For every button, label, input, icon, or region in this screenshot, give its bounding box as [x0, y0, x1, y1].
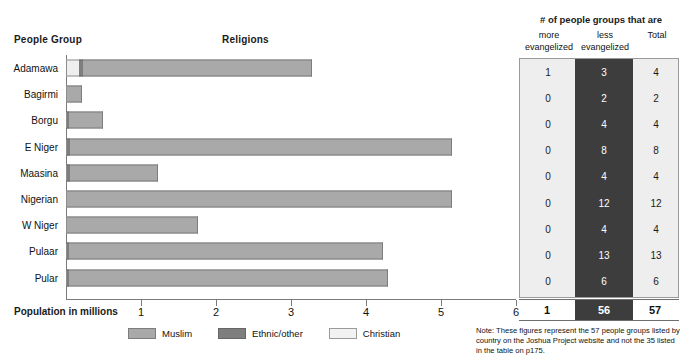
category-label: Pular	[35, 272, 58, 283]
bar-segment-muslim	[69, 112, 103, 129]
cell-total: 13	[632, 250, 680, 261]
table-body: 1340220440880440121204401313066	[519, 58, 679, 298]
column-header-less-line2: evangelized	[581, 42, 629, 52]
table-row: 01212	[520, 190, 678, 216]
table-row: 088	[520, 138, 678, 164]
table-row: 044	[520, 164, 678, 190]
column-header-less-line1: less	[597, 30, 613, 40]
table-total-row: 1 56 57	[519, 299, 679, 321]
cell-less-evangelized: 12	[575, 198, 633, 209]
category-label: Pulaar	[29, 246, 58, 257]
bar-segment-muslim	[66, 217, 198, 234]
cell-less-evangelized: 2	[575, 93, 633, 104]
bar-segment-muslim	[70, 138, 453, 155]
x-tick-label: 3	[288, 306, 294, 318]
x-tick-label: 2	[213, 306, 219, 318]
stacked-bar	[66, 191, 452, 208]
cell-more-evangelized: 0	[520, 119, 576, 130]
table-row: 022	[520, 85, 678, 111]
bar-row: Bagirmi	[66, 81, 516, 107]
table-column-headers: more evangelized less evangelized Total	[520, 30, 682, 56]
column-header-more-line1: more	[539, 30, 560, 40]
category-label: Adamawa	[14, 63, 58, 74]
cell-total: 4	[632, 171, 680, 182]
column-header-total: Total	[632, 30, 682, 42]
stacked-bar	[66, 269, 388, 286]
cell-total: 8	[632, 145, 680, 156]
bar-segment-muslim	[83, 60, 312, 77]
bar-row: Maasina	[66, 160, 516, 186]
total-less-value: 56	[575, 304, 633, 316]
category-label: Nigerian	[21, 194, 58, 205]
cell-more-evangelized: 0	[520, 276, 576, 287]
bar-segment-muslim	[66, 191, 452, 208]
column-header-more: more evangelized	[518, 30, 580, 53]
bar-row: Nigerian	[66, 186, 516, 212]
summary-table: # of people groups that are more evangel…	[520, 0, 682, 359]
table-row: 044	[520, 216, 678, 242]
x-tick-label: 5	[438, 306, 444, 318]
cell-total: 4	[632, 224, 680, 235]
category-label: Maasina	[20, 167, 58, 178]
table-title: # of people groups that are	[520, 14, 682, 25]
cell-less-evangelized: 8	[575, 145, 633, 156]
cell-less-evangelized: 4	[575, 224, 633, 235]
religions-header: Religions	[222, 34, 269, 45]
cell-more-evangelized: 0	[520, 198, 576, 209]
category-label: Borgu	[31, 115, 58, 126]
table-row: 01313	[520, 242, 678, 268]
bar-row: W Niger	[66, 212, 516, 238]
category-label: Bagirmi	[24, 89, 58, 100]
bar-row: Pular	[66, 265, 516, 291]
people-group-header: People Group	[14, 34, 82, 45]
cell-less-evangelized: 4	[575, 119, 633, 130]
cell-more-evangelized: 0	[520, 93, 576, 104]
bar-row: Pulaar	[66, 238, 516, 264]
cell-more-evangelized: 0	[520, 224, 576, 235]
footnote: Note: These figures represent the 57 peo…	[476, 326, 682, 357]
bar-row: E Niger	[66, 134, 516, 160]
cell-total: 2	[632, 93, 680, 104]
table-row: 066	[520, 269, 678, 295]
x-tick-label: 4	[363, 306, 369, 318]
cell-total: 12	[632, 198, 680, 209]
legend-label: Ethnic/other	[252, 328, 303, 339]
legend-label: Muslim	[162, 328, 192, 339]
bar-segment-christian	[66, 60, 79, 77]
bar-segment-muslim	[69, 243, 383, 260]
cell-less-evangelized: 6	[575, 276, 633, 287]
x-axis-labels: 123456	[66, 306, 526, 320]
legend-swatch-ethnic	[218, 328, 246, 339]
cell-less-evangelized: 13	[575, 250, 633, 261]
legend-swatch-christian	[329, 328, 357, 339]
category-label: W Niger	[22, 220, 58, 231]
legend-item: Christian	[329, 328, 401, 339]
legend-label: Christian	[363, 328, 401, 339]
total-total-value: 57	[631, 304, 679, 316]
stacked-bar	[66, 112, 103, 129]
cell-total: 6	[632, 276, 680, 287]
stacked-bar	[66, 164, 158, 181]
bar-chart: People Group Religions AdamawaBagirmiBor…	[0, 0, 520, 359]
table-row: 134	[520, 59, 678, 85]
x-tick-label: 1	[138, 306, 144, 318]
bar-row: Adamawa	[66, 55, 516, 81]
cell-total: 4	[632, 119, 680, 130]
bar-segment-muslim	[70, 164, 159, 181]
bar-rows: AdamawaBagirmiBorguE NigerMaasinaNigeria…	[66, 55, 516, 291]
cell-more-evangelized: 0	[520, 250, 576, 261]
legend-swatch-muslim	[128, 328, 156, 339]
cell-less-evangelized: 4	[575, 171, 633, 182]
total-more-value: 1	[519, 304, 575, 316]
table-rows: 1340220440880440121204401313066	[520, 59, 678, 295]
stacked-bar	[66, 60, 312, 77]
column-header-more-line2: evangelized	[525, 42, 573, 52]
axis-title: Population in millions	[14, 306, 118, 317]
chart-legend: MuslimEthnic/otherChristian	[128, 326, 426, 340]
bar-row: Borgu	[66, 107, 516, 133]
legend-item: Muslim	[128, 328, 192, 339]
category-label: E Niger	[25, 141, 58, 152]
column-header-less: less evangelized	[576, 30, 634, 53]
legend-item: Ethnic/other	[218, 328, 303, 339]
cell-total: 4	[632, 67, 680, 78]
